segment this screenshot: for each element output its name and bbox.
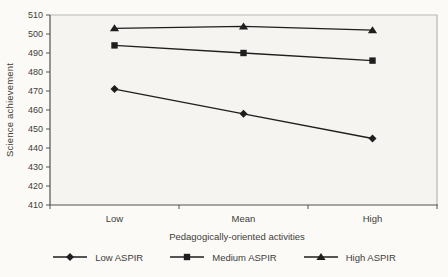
x-category-label: Low: [106, 213, 124, 224]
x-axis-title: Pedagogically-oriented activities: [169, 231, 305, 242]
square-marker-icon: [240, 50, 246, 56]
square-legend-swatch-icon: [169, 251, 205, 263]
legend-item-medium-aspir: Medium ASPIR: [169, 251, 276, 263]
y-tick-label: 510: [28, 10, 43, 20]
y-tick-label: 490: [28, 48, 43, 58]
legend: Low ASPIRMedium ASPIRHigh ASPIR: [0, 251, 448, 263]
square-marker-icon: [369, 57, 375, 63]
legend-label: High ASPIR: [346, 252, 396, 263]
y-tick-label: 460: [28, 105, 43, 115]
y-tick-label: 420: [28, 181, 43, 191]
x-category-label: Mean: [232, 213, 256, 224]
legend-label: Low ASPIR: [95, 252, 143, 263]
y-tick-label: 410: [28, 200, 43, 210]
y-tick-label: 450: [28, 124, 43, 134]
legend-label: Medium ASPIR: [212, 252, 276, 263]
legend-item-low-aspir: Low ASPIR: [52, 251, 143, 263]
diamond-legend-swatch-icon: [52, 251, 88, 263]
y-tick-label: 480: [28, 67, 43, 77]
square-marker-icon: [111, 42, 117, 48]
legend-item-high-aspir: High ASPIR: [303, 251, 396, 263]
diamond-marker-icon: [66, 253, 74, 261]
triangle-legend-swatch-icon: [303, 251, 339, 263]
y-tick-label: 470: [28, 86, 43, 96]
y-tick-label: 500: [28, 29, 43, 39]
y-tick-label: 430: [28, 162, 43, 172]
x-category-label: High: [363, 213, 383, 224]
y-tick-label: 440: [28, 143, 43, 153]
square-marker-icon: [184, 254, 190, 260]
line-chart-figure: Science achievement 41042043044045046047…: [0, 0, 448, 277]
